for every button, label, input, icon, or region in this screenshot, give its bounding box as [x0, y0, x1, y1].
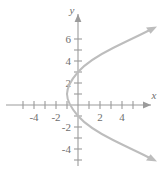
- x-tick-label-4: 4: [119, 111, 125, 123]
- parabola-upper-branch: [67, 30, 150, 94]
- y-axis-group: 6 4 2 -2 -4 y: [62, 4, 82, 166]
- y-axis-label: y: [69, 4, 75, 16]
- y-tick-label-6: 6: [66, 33, 72, 45]
- x-axis-arrowhead: [143, 102, 151, 109]
- x-tick-label-minus4: -4: [29, 111, 39, 123]
- y-tick-label-minus2: -2: [62, 121, 71, 133]
- parabola-graph: -4 -2 2 4 x 6 4 2 -2: [0, 0, 166, 170]
- y-tick-label-4: 4: [66, 55, 72, 67]
- y-axis-arrowhead: [75, 14, 82, 22]
- x-tick-label-minus2: -2: [51, 111, 60, 123]
- parabola-lower-branch: [67, 94, 150, 158]
- y-tick-label-minus4: -4: [62, 143, 72, 155]
- coordinate-plane-figure: -4 -2 2 4 x 6 4 2 -2: [0, 0, 166, 170]
- x-axis-label: x: [151, 89, 157, 101]
- x-tick-label-2: 2: [97, 111, 103, 123]
